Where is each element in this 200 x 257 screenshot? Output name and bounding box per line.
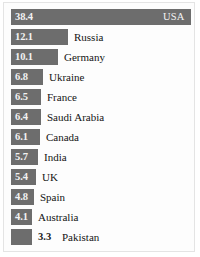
bar-category-label: Germany: [64, 49, 105, 65]
bar-category-label: France: [47, 89, 77, 105]
bar-row: 5.4UK: [11, 169, 192, 185]
bar: [11, 229, 32, 245]
bar-category-label: Australia: [38, 209, 78, 225]
bar-row: 4.8Spain: [11, 189, 192, 205]
bar-category-label: Canada: [46, 129, 79, 145]
bar-category-label: Ukraine: [49, 69, 84, 85]
bar-row: 3.3Pakistan: [11, 229, 192, 245]
bar-row: 4.1Australia: [11, 209, 192, 225]
bar-category-label: Saudi Arabia: [47, 109, 104, 125]
bar-category-label: UK: [42, 169, 58, 185]
bar-row: 12.1Russia: [11, 29, 192, 45]
bar-row: 38.4USA: [11, 9, 192, 25]
bar-category-label: Spain: [40, 189, 65, 205]
bar-value-label: 3.3: [38, 229, 51, 245]
bar-category-label: Pakistan: [62, 229, 99, 245]
bar-row: 5.7India: [11, 149, 192, 165]
bar-row: 6.5France: [11, 89, 192, 105]
bar-value-label: 6.1: [15, 129, 28, 145]
bar-row: 10.1Germany: [11, 49, 192, 65]
bar-value-label: 38.4: [15, 9, 33, 25]
bar-row: 6.4Saudi Arabia: [11, 109, 192, 125]
bar-category-label: India: [44, 149, 67, 165]
bar-value-label: 5.7: [15, 149, 28, 165]
bar-value-label: 4.8: [15, 189, 28, 205]
bar-value-label: 12.1: [15, 29, 33, 45]
bar-value-label: 10.1: [15, 49, 33, 65]
bar-row: 6.8Ukraine: [11, 69, 192, 85]
bar-value-label: 4.1: [15, 209, 28, 225]
chart-frame: 38.4USA12.1Russia10.1Germany6.8Ukraine6.…: [3, 2, 195, 252]
bar-row: 6.1Canada: [11, 129, 192, 145]
bar-value-label: 6.8: [15, 69, 28, 85]
horizontal-bar-chart-plot-area: 38.4USA12.1Russia10.1Germany6.8Ukraine6.…: [4, 3, 194, 251]
bar-category-label: USA: [163, 9, 185, 25]
bar-value-label: 6.4: [15, 109, 28, 125]
bar-value-label: 5.4: [15, 169, 28, 185]
bar-category-label: Russia: [74, 29, 103, 45]
bar-value-label: 6.5: [15, 89, 28, 105]
